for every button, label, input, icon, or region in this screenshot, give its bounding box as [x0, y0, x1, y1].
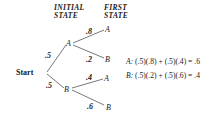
- header-first-state: FIRST STATE: [104, 4, 128, 20]
- equation-A-state: A:: [126, 57, 133, 66]
- equation-B: B: (.5)(.2) + (.5)(.6) = .4: [126, 71, 200, 80]
- prob-A-B: .2: [86, 55, 92, 64]
- equation-B-expr: (.5)(.2) + (.5)(.6) = .4: [135, 71, 200, 80]
- node-B-initial: B: [64, 85, 69, 94]
- prob-start-B: .5: [46, 81, 52, 90]
- equation-A-expr: (.5)(.8) + (.5)(.4) = .6: [135, 57, 200, 66]
- prob-start-A: .5: [45, 51, 51, 60]
- node-B-A: A: [104, 74, 109, 83]
- start-node: Start: [16, 68, 33, 77]
- node-A-A: A: [105, 25, 110, 34]
- prob-B-A: .4: [86, 73, 92, 82]
- node-B-B: B: [106, 103, 111, 112]
- equation-B-state: B:: [126, 71, 133, 80]
- prob-A-A: .8: [86, 27, 92, 36]
- equation-A: A: (.5)(.8) + (.5)(.4) = .6: [126, 57, 200, 66]
- header-initial-state: INITIAL STATE: [54, 4, 84, 20]
- header-first-line2: STATE: [104, 12, 128, 20]
- node-A-B: B: [105, 55, 110, 64]
- prob-B-B: .6: [87, 102, 93, 111]
- header-initial-line2: STATE: [54, 12, 84, 20]
- node-A-initial: A: [66, 39, 71, 48]
